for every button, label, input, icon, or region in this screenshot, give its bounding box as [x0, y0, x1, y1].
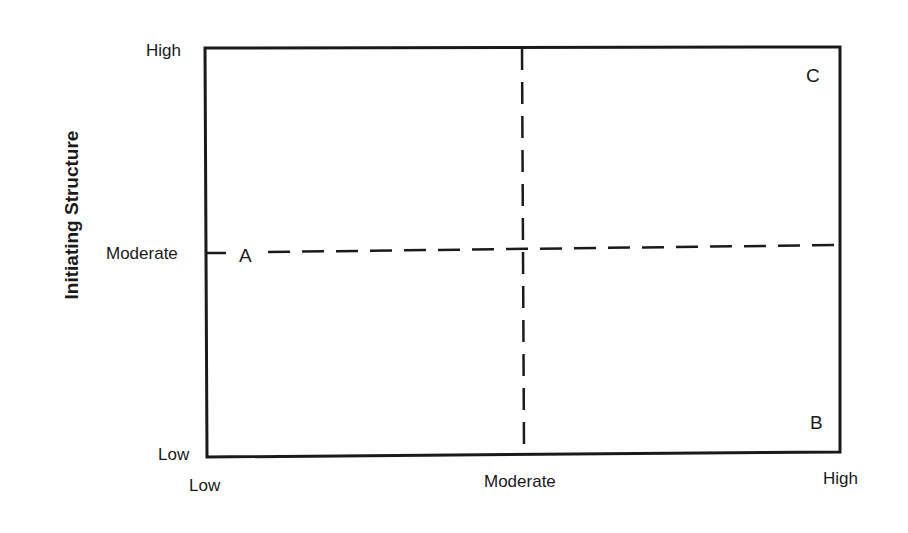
y-tick-high: High [146, 42, 181, 59]
point-c-label: C [806, 66, 820, 85]
plot-area [0, 0, 908, 533]
x-tick-low: Low [189, 477, 220, 494]
point-b-label: B [810, 413, 823, 432]
x-tick-moderate: Moderate [484, 473, 556, 490]
y-tick-low: Low [158, 446, 189, 463]
point-a-label: A [239, 246, 252, 265]
horizontal-divider-moderate [268, 245, 840, 252]
x-tick-high: High [823, 470, 858, 487]
y-axis-title: Initiating Structure [61, 131, 83, 300]
leadership-grid-diagram: Initiating Structure High Moderate Low L… [0, 0, 908, 533]
y-tick-moderate: Moderate [106, 245, 178, 262]
